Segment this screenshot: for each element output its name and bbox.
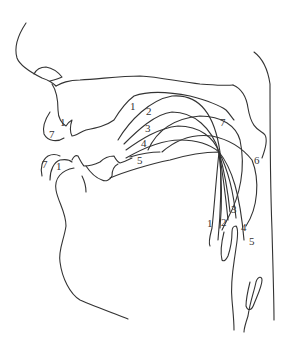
chin-neck: [56, 168, 128, 319]
arc-1: [118, 96, 221, 240]
vocal-tract-diagram: 1 7 7 1 1 2 3 4 5 7 6 1 2 3 4 5: [0, 0, 290, 343]
lower-teeth-tongue-front: [72, 156, 132, 166]
tongue-root-line: [130, 152, 160, 157]
nose-outline: [16, 23, 56, 86]
label-arc-6: 6: [254, 154, 260, 166]
label-low-5: 5: [249, 235, 255, 247]
label-arc-2: 2: [146, 105, 152, 117]
label-lower-lip-1: 1: [56, 160, 62, 172]
label-low-2: 2: [221, 216, 227, 228]
low-strand-1: [209, 152, 219, 246]
lower-lip-curl: [86, 164, 118, 181]
label-upper-lip-1: 1: [60, 116, 66, 128]
label-upper-lip-7: 7: [49, 128, 55, 140]
label-arc-3: 3: [145, 122, 151, 134]
arc-2: [124, 112, 221, 228]
label-low-3: 3: [231, 203, 237, 215]
label-arc-5: 5: [137, 154, 143, 166]
nasal-floor-line: [56, 76, 233, 86]
label-lower-lip-7: 7: [42, 158, 48, 170]
arytenoid: [244, 277, 262, 332]
arc-6: [162, 136, 257, 226]
lower-teeth: [82, 176, 86, 192]
label-low-1: 1: [207, 217, 213, 229]
epiglottis-left: [221, 226, 237, 330]
label-arc-1: 1: [130, 100, 136, 112]
label-arc-4: 4: [141, 137, 147, 149]
label-low-4: 4: [241, 221, 247, 233]
arc-7: [148, 116, 242, 230]
label-arc-7: 7: [220, 116, 226, 128]
nostril: [34, 67, 62, 81]
